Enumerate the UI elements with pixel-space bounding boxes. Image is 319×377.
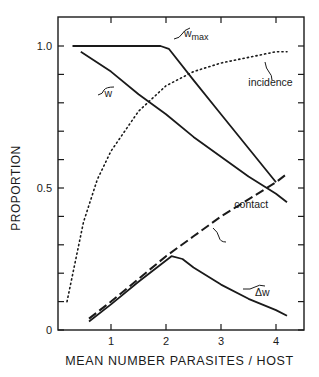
curve-labels: wmaxwincidencecontactΔw bbox=[98, 27, 293, 297]
leader-line-contact bbox=[213, 228, 226, 242]
y-tick-label: 0 bbox=[46, 324, 52, 336]
x-axis-label: MEAN NUMBER PARASITES / HOST bbox=[0, 354, 319, 368]
y-axis-label: PROPORTION bbox=[9, 145, 23, 230]
x-tick-label: 4 bbox=[273, 335, 279, 347]
chart-canvas: 123400.51.0 wmaxwincidencecontactΔw bbox=[0, 0, 319, 377]
series-w bbox=[81, 52, 287, 203]
x-tick-label: 3 bbox=[218, 335, 224, 347]
curve-label: contact bbox=[234, 198, 268, 210]
axis-tick-labels: 123400.51.0 bbox=[37, 40, 279, 347]
curve-label: Δw bbox=[255, 286, 270, 298]
x-tick-label: 1 bbox=[108, 335, 114, 347]
series-incidence bbox=[67, 52, 287, 302]
y-tick-label: 1.0 bbox=[37, 40, 52, 52]
curve-label: incidence bbox=[248, 76, 293, 88]
x-tick-label: 2 bbox=[163, 335, 169, 347]
y-tick-label: 0.5 bbox=[37, 182, 52, 194]
